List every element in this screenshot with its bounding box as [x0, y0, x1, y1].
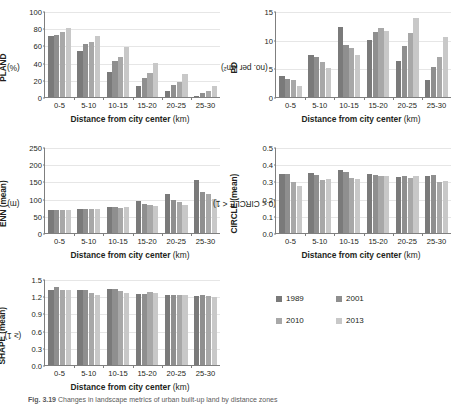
- pland-bar-2010-25-30: [206, 91, 211, 97]
- pd-bar-2010-0-5: [291, 80, 296, 97]
- enn-bar-2001-5-10: [83, 209, 88, 233]
- pd-bar-1989-25-30: [425, 80, 430, 97]
- pd-bar-2001-5-10: [314, 57, 319, 97]
- circle-bar-2001-25-30: [431, 175, 436, 233]
- pd-x-axis-title-bold: Distance from city center: [301, 114, 401, 124]
- shape-bar-group: 0-5: [45, 280, 74, 365]
- circle-bar-group: 20-25: [393, 148, 422, 233]
- shape-bar-1989-25-30: [194, 296, 199, 365]
- enn-bar-1989-25-30: [194, 180, 199, 233]
- shape-y-axis-title: SHAPE (mean) (≥ 1): [0, 272, 16, 400]
- circle-y-tick-label: 0.3: [262, 178, 273, 187]
- circle-bar-2001-0-5: [285, 174, 290, 234]
- enn-bar-2001-15-20: [142, 204, 147, 233]
- circle-bar-1989-10-15: [338, 170, 343, 233]
- pd-y-axis-title-units: (no. per km²): [221, 63, 268, 73]
- enn-bar-2013-0-5: [66, 210, 71, 233]
- shape-y-tick-label: 0.0: [31, 362, 42, 371]
- circle-x-tick-label: 20-25: [398, 237, 417, 246]
- pland-x-tick-label: 5-10: [81, 101, 96, 110]
- pland-x-separator-tick: [103, 97, 104, 100]
- enn-bar-2001-10-15: [112, 207, 117, 233]
- pd-x-axis-title-units: (km): [404, 114, 421, 124]
- pland-bar-2001-0-5: [54, 35, 59, 97]
- legend-item-2010: 2010: [276, 316, 336, 325]
- circle-bar-2010-0-5: [291, 182, 296, 233]
- pland-bar-1989-20-25: [165, 91, 170, 97]
- pland-y-axis-title-units: (%): [0, 63, 27, 73]
- pd-bar-groups: 0-55-1010-1515-2020-2525-30: [276, 12, 451, 97]
- legend-label: 2010: [286, 316, 304, 325]
- pland-x-axis-title-units: (km): [173, 114, 190, 124]
- enn-plot-area: 0501001502002500-55-1010-1515-2020-2525-…: [44, 148, 220, 234]
- enn-y-tick-mark: [43, 234, 46, 235]
- pd-bar-2013-0-5: [297, 86, 302, 97]
- enn-bar-2010-25-30: [206, 194, 211, 233]
- circle-x-separator-tick: [393, 233, 394, 236]
- pd-y-tick-label: 0: [269, 94, 273, 103]
- shape-x-separator-tick: [74, 365, 75, 368]
- circle-bar-2013-0-5: [297, 186, 302, 233]
- pd-x-separator-tick: [364, 97, 365, 100]
- enn-x-tick-label: 5-10: [81, 237, 96, 246]
- pland-bar-2013-10-15: [124, 47, 129, 97]
- chart-panel-pd: PD (no. per km²) 0510150-55-1010-1515-20…: [231, 4, 461, 132]
- enn-bar-1989-15-20: [136, 201, 141, 233]
- circle-bar-1989-15-20: [367, 174, 372, 233]
- shape-bar-2013-10-15: [124, 293, 129, 365]
- circle-x-tick-label: 15-20: [368, 237, 387, 246]
- chart-panel-shape: SHAPE (mean) (≥ 1) 0.00.30.60.91.21.50-5…: [0, 272, 230, 400]
- shape-bar-group: 25-30: [191, 280, 220, 365]
- pland-bar-2013-0-5: [66, 28, 71, 97]
- shape-bar-1989-15-20: [136, 294, 141, 365]
- pland-bar-2001-5-10: [83, 44, 88, 97]
- pd-x-tick-label: 25-30: [427, 101, 446, 110]
- pd-bar-1989-15-20: [367, 40, 372, 97]
- shape-bar-group: 10-15: [103, 280, 132, 365]
- enn-y-tick-label: 50: [34, 212, 42, 221]
- legend-label: 2013: [346, 316, 364, 325]
- shape-x-separator-tick: [103, 365, 104, 368]
- shape-x-axis-title-bold: Distance from city center: [70, 382, 170, 392]
- pd-y-tick-label: 15: [265, 8, 273, 17]
- circle-bar-2010-10-15: [349, 178, 354, 233]
- circle-bar-2013-25-30: [443, 181, 448, 233]
- shape-bar-1989-10-15: [107, 289, 112, 365]
- pd-bar-2001-15-20: [373, 32, 378, 97]
- enn-bar-groups: 0-55-1010-1515-2020-2525-30: [45, 148, 220, 233]
- pland-x-separator-tick: [74, 97, 75, 100]
- pland-bar-group: 15-20: [133, 12, 162, 97]
- pd-bar-2013-15-20: [384, 31, 389, 97]
- pd-x-tick-label: 0-5: [285, 101, 296, 110]
- enn-bar-2001-0-5: [54, 210, 59, 233]
- circle-bar-group: 25-30: [422, 148, 451, 233]
- circle-x-tick-label: 25-30: [427, 237, 446, 246]
- pland-bar-2010-0-5: [60, 32, 65, 97]
- circle-y-tick-label: 0.5: [262, 144, 273, 153]
- pd-bar-2001-20-25: [402, 46, 407, 97]
- figure-caption-label: Fig. 3.19: [28, 396, 56, 403]
- shape-bar-2010-0-5: [60, 290, 65, 365]
- circle-y-axis-title: CIRCLE (mean) (0 ≤ CIRCLE < 1): [231, 140, 247, 268]
- shape-bar-1989-0-5: [48, 290, 53, 365]
- pd-x-separator-tick: [393, 97, 394, 100]
- figure-caption-text: Changes in landscape metrics of urban bu…: [58, 396, 277, 403]
- enn-x-separator-tick: [103, 233, 104, 236]
- pd-bar-2013-10-15: [355, 55, 360, 97]
- circle-bar-2010-20-25: [408, 178, 413, 233]
- pland-plot-area: 0204060801000-55-1010-1515-2020-2525-30: [44, 12, 220, 98]
- pland-x-tick-label: 15-20: [137, 101, 156, 110]
- circle-y-tick-label: 0.0: [262, 230, 273, 239]
- enn-bar-group: 20-25: [162, 148, 191, 233]
- circle-bar-1989-5-10: [308, 173, 313, 233]
- pd-bar-1989-20-25: [396, 61, 401, 97]
- pland-x-tick-label: 20-25: [167, 101, 186, 110]
- shape-bar-2013-25-30: [212, 297, 217, 365]
- circle-x-tick-label: 5-10: [312, 237, 327, 246]
- pland-bar-2013-25-30: [212, 86, 217, 97]
- circle-bar-groups: 0-55-1010-1515-2020-2525-30: [276, 148, 451, 233]
- shape-bar-2001-20-25: [171, 295, 176, 365]
- pland-y-tick-mark: [43, 98, 46, 99]
- pd-x-tick-label: 10-15: [339, 101, 358, 110]
- pd-x-axis-title: Distance from city center (km): [261, 114, 461, 124]
